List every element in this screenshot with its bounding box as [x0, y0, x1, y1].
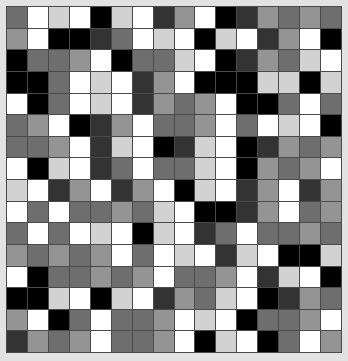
heatmap-cell	[300, 94, 320, 115]
heatmap-cell	[154, 245, 174, 266]
heatmap-cell	[195, 94, 215, 115]
heatmap-cell	[154, 202, 174, 223]
heatmap-cell	[133, 288, 153, 309]
heatmap-cell	[216, 202, 236, 223]
heatmap-cell	[195, 158, 215, 179]
heatmap-cell	[7, 245, 27, 266]
heatmap-cell	[300, 331, 320, 352]
heatmap-cell	[279, 7, 299, 28]
heatmap-cell	[154, 288, 174, 309]
heatmap-cell	[321, 50, 341, 71]
heatmap-cell	[28, 202, 48, 223]
heatmap-cell	[279, 29, 299, 50]
heatmap-cell	[237, 180, 257, 201]
heatmap-cell	[237, 137, 257, 158]
heatmap-cell	[70, 267, 90, 288]
heatmap-cell	[28, 94, 48, 115]
heatmap-cell	[49, 50, 69, 71]
heatmap-cell	[112, 158, 132, 179]
heatmap-cell	[70, 7, 90, 28]
heatmap-cell	[279, 223, 299, 244]
heatmap-cell	[112, 267, 132, 288]
heatmap-cell	[154, 72, 174, 93]
heatmap-cell	[321, 29, 341, 50]
heatmap-cell	[154, 158, 174, 179]
heatmap-cell	[7, 180, 27, 201]
heatmap-cell	[237, 29, 257, 50]
heatmap-cell	[91, 158, 111, 179]
heatmap-cell	[279, 180, 299, 201]
heatmap-cell	[216, 245, 236, 266]
heatmap-cell	[28, 7, 48, 28]
heatmap-cell	[28, 288, 48, 309]
heatmap-cell	[7, 137, 27, 158]
heatmap-cell	[154, 267, 174, 288]
heatmap-cell	[321, 137, 341, 158]
heatmap-cell	[154, 331, 174, 352]
heatmap-cell	[195, 137, 215, 158]
heatmap-plot-area	[6, 6, 342, 353]
figure-canvas	[0, 0, 348, 361]
heatmap-cell	[133, 245, 153, 266]
heatmap-cell	[321, 267, 341, 288]
heatmap-cell	[279, 50, 299, 71]
heatmap-cell	[216, 180, 236, 201]
heatmap-cell	[154, 223, 174, 244]
heatmap-cell	[28, 331, 48, 352]
heatmap-cell	[195, 288, 215, 309]
heatmap-cell	[258, 288, 278, 309]
heatmap-cell	[195, 331, 215, 352]
heatmap-cell	[154, 29, 174, 50]
heatmap-cell	[175, 267, 195, 288]
heatmap-cell	[28, 180, 48, 201]
heatmap-cell	[112, 223, 132, 244]
heatmap-cell	[28, 50, 48, 71]
heatmap-cell	[133, 50, 153, 71]
heatmap-cell	[216, 223, 236, 244]
heatmap-cell	[7, 202, 27, 223]
heatmap-cell	[112, 331, 132, 352]
heatmap-cell	[216, 94, 236, 115]
heatmap-cell	[70, 115, 90, 136]
heatmap-cell	[154, 180, 174, 201]
heatmap-cell	[70, 158, 90, 179]
heatmap-cell	[112, 72, 132, 93]
heatmap-cell	[133, 115, 153, 136]
heatmap-cell	[133, 202, 153, 223]
heatmap-cell	[321, 115, 341, 136]
heatmap-cell	[300, 72, 320, 93]
heatmap-cell	[28, 137, 48, 158]
heatmap-cell	[300, 267, 320, 288]
heatmap-cell	[216, 331, 236, 352]
heatmap-cell	[300, 50, 320, 71]
heatmap-cell	[28, 72, 48, 93]
heatmap-cell	[112, 245, 132, 266]
heatmap-cell	[7, 158, 27, 179]
heatmap-cell	[28, 267, 48, 288]
heatmap-cell	[195, 202, 215, 223]
heatmap-cell	[175, 180, 195, 201]
heatmap-cell	[279, 267, 299, 288]
heatmap-cell	[237, 310, 257, 331]
heatmap-cell	[91, 288, 111, 309]
heatmap-cell	[258, 245, 278, 266]
heatmap-cell	[133, 137, 153, 158]
heatmap-cell	[279, 137, 299, 158]
heatmap-cell	[237, 72, 257, 93]
heatmap-cell	[258, 94, 278, 115]
heatmap-cell	[258, 137, 278, 158]
heatmap-cell	[112, 202, 132, 223]
heatmap-cell	[112, 7, 132, 28]
heatmap-cell	[175, 94, 195, 115]
heatmap-cell	[49, 267, 69, 288]
heatmap-cell	[237, 7, 257, 28]
heatmap-cell	[195, 7, 215, 28]
heatmap-cell	[258, 72, 278, 93]
heatmap-cell	[28, 115, 48, 136]
heatmap-cell	[49, 180, 69, 201]
heatmap-cell	[321, 288, 341, 309]
heatmap-cell	[175, 158, 195, 179]
heatmap-cell	[300, 180, 320, 201]
heatmap-cell	[70, 94, 90, 115]
heatmap-cell	[91, 115, 111, 136]
